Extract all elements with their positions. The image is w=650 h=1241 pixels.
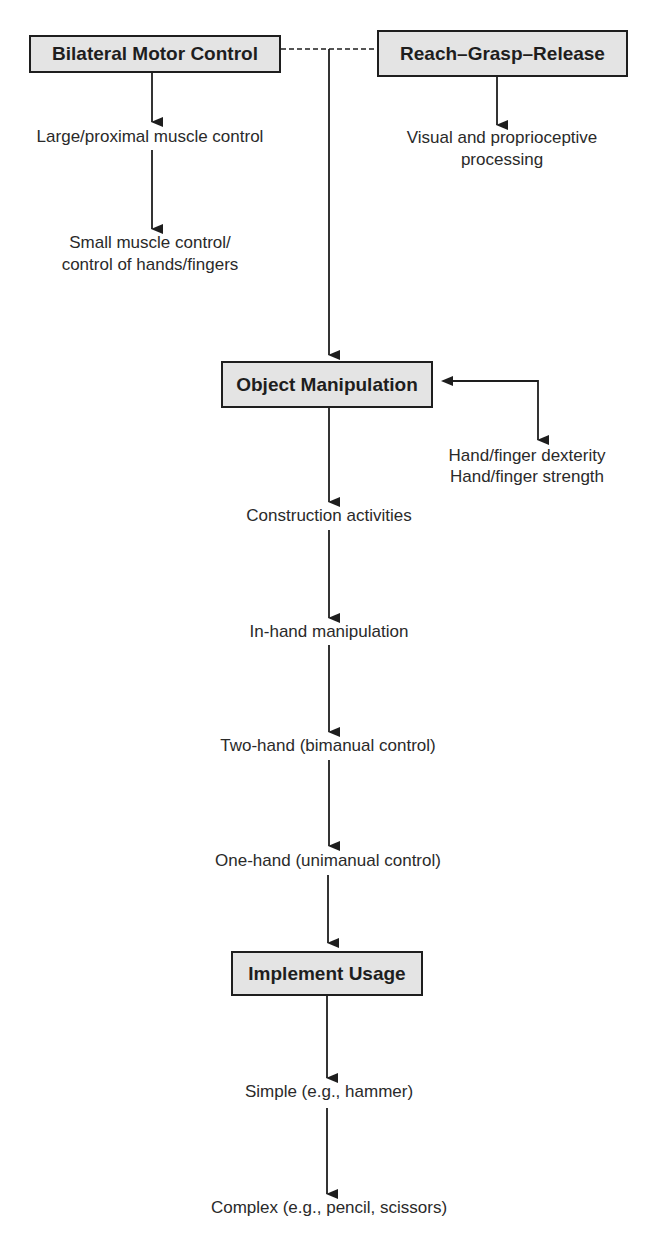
label-small-muscle-control-line2: control of hands/fingers (62, 254, 239, 276)
label-construction-activities: Construction activities (246, 505, 411, 527)
box-object-manipulation: Object Manipulation (221, 361, 433, 408)
label-hand-finger-dexterity: Hand/finger dexterity (449, 445, 606, 467)
label-visual-proprioceptive-line2: processing (461, 149, 543, 171)
label-visual-proprioceptive-line1: Visual and proprioceptive (407, 127, 598, 149)
label-large-proximal-muscle-control: Large/proximal muscle control (37, 126, 264, 148)
box-bilateral-motor-control: Bilateral Motor Control (29, 35, 281, 73)
label-complex: Complex (e.g., pencil, scissors) (211, 1197, 447, 1219)
arrow-object-to-hand-finger (444, 381, 538, 440)
label-in-hand-manipulation: In-hand manipulation (250, 621, 409, 643)
label-hand-finger-strength: Hand/finger strength (450, 466, 604, 488)
label-two-hand: Two-hand (bimanual control) (220, 735, 435, 757)
box-implement-usage: Implement Usage (231, 951, 423, 996)
label-small-muscle-control-line1: Small muscle control/ (69, 232, 231, 254)
box-reach-grasp-release: Reach–Grasp–Release (377, 30, 628, 77)
label-one-hand: One-hand (unimanual control) (215, 850, 441, 872)
label-simple: Simple (e.g., hammer) (245, 1081, 413, 1103)
